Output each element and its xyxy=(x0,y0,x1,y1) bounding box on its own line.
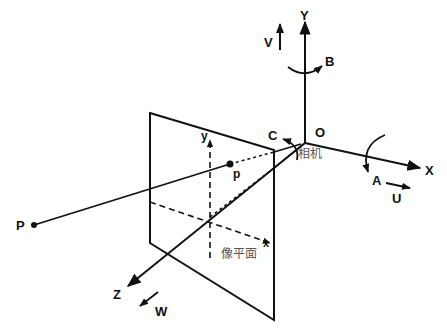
world-point-P xyxy=(31,222,37,228)
v-label: V xyxy=(264,35,273,50)
image-plane-label: 像平面 xyxy=(221,247,257,261)
origin-label: O xyxy=(315,125,325,140)
x-axis-label: X xyxy=(425,163,434,178)
w-label: W xyxy=(155,304,168,319)
projection-ray-P-p xyxy=(31,161,234,229)
z-axis xyxy=(128,143,305,286)
y-axis-label: Y xyxy=(300,8,309,23)
u-arrow-icon xyxy=(386,183,410,188)
world-point-label: P xyxy=(16,218,25,233)
u-label: U xyxy=(392,191,401,206)
image-x-label: x xyxy=(263,237,270,249)
camera-label: 相机 xyxy=(298,147,322,161)
c-label: C xyxy=(268,128,278,143)
z-axis-label: Z xyxy=(113,287,121,302)
b-label: B xyxy=(325,54,334,69)
image-point-label: p xyxy=(233,167,240,181)
x-axis xyxy=(305,143,420,168)
a-label: A xyxy=(372,173,382,188)
projection-rays xyxy=(210,144,301,217)
image-plane-axes xyxy=(150,140,270,258)
image-plane xyxy=(150,113,274,320)
rotation-a-icon xyxy=(366,135,385,172)
camera-model-diagram: Y V B O C 相机 X A U y p x 像平面 P Z W xyxy=(0,0,447,330)
image-y-label: y xyxy=(201,129,208,143)
